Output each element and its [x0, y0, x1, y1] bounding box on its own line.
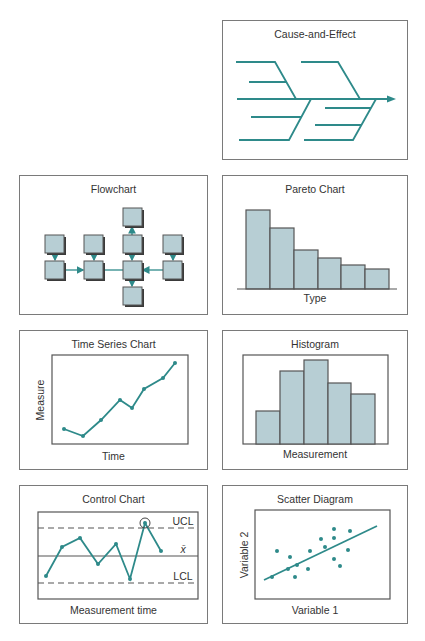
scatter-ylabel: Variable 2 — [238, 532, 250, 579]
trend-line — [264, 526, 377, 580]
scatter-chart: Variable 2 — [0, 0, 425, 641]
